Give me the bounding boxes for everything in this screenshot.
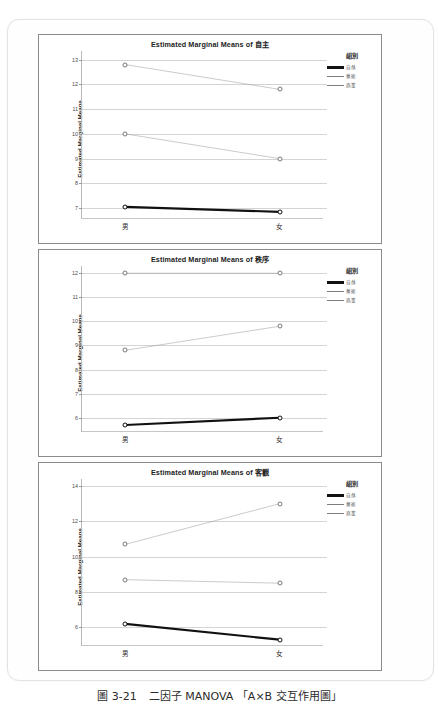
data-point-marker xyxy=(123,542,128,547)
legend-swatch-thin-icon xyxy=(327,85,344,86)
legend-item[interactable]: 藝術 xyxy=(327,73,377,79)
figure-number: 圖 3-21 xyxy=(97,690,136,703)
series-line xyxy=(125,326,279,350)
y-tick-label: 10 xyxy=(72,131,78,137)
legend-item[interactable]: 自然 xyxy=(327,64,377,70)
data-point-marker xyxy=(277,156,282,161)
legend-label: 藝術 xyxy=(346,501,356,507)
legend-title: 組別 xyxy=(327,479,377,488)
plot-area-1: 13121110987男女 xyxy=(81,51,323,219)
x-tick-label: 男 xyxy=(122,434,129,444)
legend-label: 藝術 xyxy=(346,288,356,294)
data-point-marker xyxy=(123,422,128,427)
legend-swatch-bold-icon xyxy=(327,494,344,497)
legend-item[interactable]: 商業 xyxy=(327,297,377,303)
legend-label: 商業 xyxy=(346,297,356,303)
legend-swatch-thin-icon xyxy=(327,513,344,514)
legend-swatch-thin-icon xyxy=(327,291,344,292)
legend-swatch-thin-icon xyxy=(327,300,344,301)
legend-item[interactable]: 藝術 xyxy=(327,288,377,294)
y-tick-label: 12 xyxy=(72,270,78,276)
y-tick-label: 6 xyxy=(75,415,78,421)
legend-item[interactable]: 自然 xyxy=(327,492,377,498)
x-tick-label: 女 xyxy=(276,434,283,444)
series-line xyxy=(125,580,279,584)
series-line xyxy=(125,65,279,90)
series-line xyxy=(125,418,279,425)
y-tick-label: 7 xyxy=(75,205,78,211)
data-point-marker xyxy=(123,348,128,353)
legend-label: 商業 xyxy=(346,510,356,516)
legend-title: 組別 xyxy=(327,266,377,275)
legend-item[interactable]: 商業 xyxy=(327,510,377,516)
data-point-marker xyxy=(277,209,282,214)
y-tick-label: 12 xyxy=(72,518,78,524)
y-tick-label: 9 xyxy=(75,342,78,348)
data-point-marker xyxy=(277,324,282,329)
y-tick-label: 12 xyxy=(72,81,78,87)
y-tick-label: 8 xyxy=(75,180,78,186)
y-tick-label: 8 xyxy=(75,589,78,595)
data-point-marker xyxy=(277,637,282,642)
legend-item[interactable]: 自然 xyxy=(327,279,377,285)
x-tick-label: 女 xyxy=(276,648,283,658)
legend-label: 自然 xyxy=(346,64,356,70)
chart-title: Estimated Marginal Means of 自主 xyxy=(39,39,381,49)
data-point-marker xyxy=(277,501,282,506)
legend-label: 藝術 xyxy=(346,73,356,79)
legend-item[interactable]: 藝術 xyxy=(327,501,377,507)
legend-swatch-bold-icon xyxy=(327,281,344,284)
data-point-marker xyxy=(123,204,128,209)
series-line xyxy=(125,624,279,640)
data-point-marker xyxy=(123,577,128,582)
y-tick-label: 10 xyxy=(72,318,78,324)
data-point-marker xyxy=(277,271,282,276)
chart-panel-2: Estimated Marginal Means of 秩序 Estimated… xyxy=(38,249,382,457)
figure-caption: 圖 3-21二因子 MANOVA 「A×B 交互作用圖」 xyxy=(0,687,439,703)
data-point-marker xyxy=(123,131,128,136)
plot-area-3: 14121086男女 xyxy=(81,479,323,646)
y-tick-label: 9 xyxy=(75,156,78,162)
y-tick-label: 7 xyxy=(75,391,78,397)
data-point-marker xyxy=(123,621,128,626)
data-point-marker xyxy=(123,62,128,67)
x-tick-label: 男 xyxy=(122,648,129,658)
series-line xyxy=(125,207,279,212)
figure-caption-text: 二因子 MANOVA 「A×B 交互作用圖」 xyxy=(149,690,342,703)
y-tick-label: 11 xyxy=(72,106,78,112)
y-tick-label: 6 xyxy=(75,624,78,630)
series-line xyxy=(125,134,279,159)
series-layer xyxy=(82,51,323,218)
legend-2: 組別 自然 藝術 商業 xyxy=(327,266,377,306)
chart-panel-3: Estimated Marginal Means of 客觀 Estimated… xyxy=(38,462,382,671)
y-tick-label: 11 xyxy=(72,294,78,300)
chart-stack: Estimated Marginal Means of 自主 Estimated… xyxy=(38,34,382,676)
series-layer xyxy=(82,266,323,431)
data-point-marker xyxy=(277,415,282,420)
data-point-marker xyxy=(277,581,282,586)
legend-title: 組別 xyxy=(327,51,377,60)
chart-title: Estimated Marginal Means of 秩序 xyxy=(39,254,381,264)
y-tick-label: 14 xyxy=(72,483,78,489)
legend-3: 組別 自然 藝術 商業 xyxy=(327,479,377,519)
legend-label: 自然 xyxy=(346,279,356,285)
legend-item[interactable]: 商業 xyxy=(327,82,377,88)
legend-swatch-bold-icon xyxy=(327,66,344,69)
y-tick-label: 8 xyxy=(75,367,78,373)
series-line xyxy=(125,504,279,545)
legend-label: 商業 xyxy=(346,82,356,88)
x-tick-label: 男 xyxy=(122,221,129,231)
y-tick-label: 10 xyxy=(72,554,78,560)
chart-panel-1: Estimated Marginal Means of 自主 Estimated… xyxy=(38,34,382,244)
chart-title: Estimated Marginal Means of 客觀 xyxy=(39,467,381,477)
legend-swatch-thin-icon xyxy=(327,504,344,505)
series-layer xyxy=(82,479,323,645)
data-point-marker xyxy=(277,87,282,92)
x-tick-label: 女 xyxy=(276,221,283,231)
y-tick-label: 13 xyxy=(72,57,78,63)
legend-swatch-thin-icon xyxy=(327,76,344,77)
legend-label: 自然 xyxy=(346,492,356,498)
plot-area-2: 1211109876男女 xyxy=(81,266,323,432)
legend-1: 組別 自然 藝術 商業 xyxy=(327,51,377,91)
data-point-marker xyxy=(123,271,128,276)
